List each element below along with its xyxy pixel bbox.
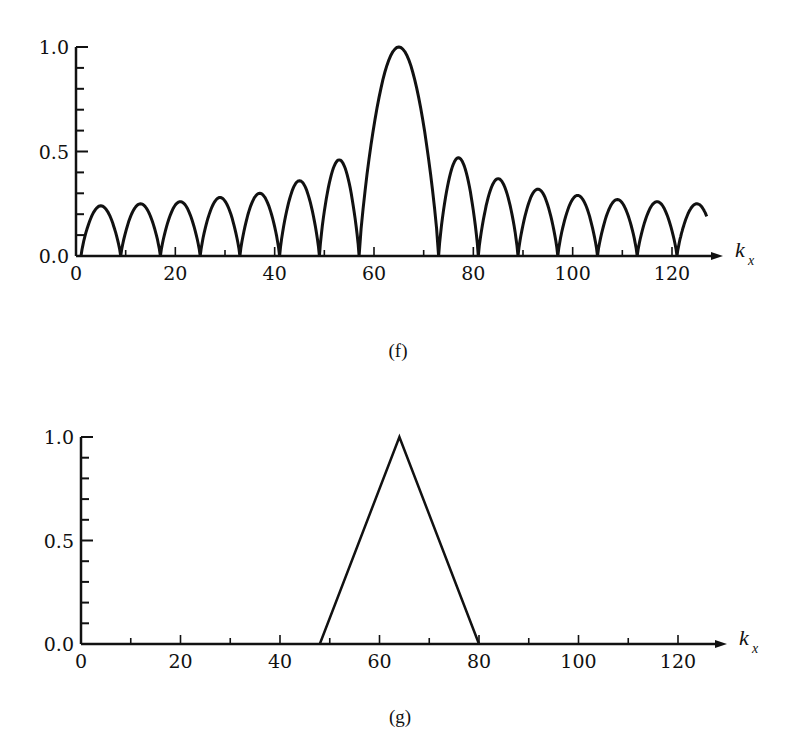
chart-f-xlabel-subscript: x [747, 253, 755, 268]
chart-f-caption: (f) [389, 340, 408, 362]
x-tick-label: 0 [70, 262, 82, 284]
chart-g-xlabel-subscript: x [751, 641, 759, 656]
x-tick-label: 40 [263, 262, 287, 284]
x-tick-label: 0 [75, 650, 87, 672]
chart-f-axes [76, 47, 723, 260]
x-tick-label: 20 [168, 650, 192, 672]
x-tick-label: 40 [268, 650, 292, 672]
chart-g-axes [81, 437, 727, 648]
x-tick-label: 60 [362, 262, 386, 284]
x-axis-arrow-icon [711, 252, 723, 260]
x-axis-arrow-icon [715, 640, 727, 648]
x-tick-label: 80 [467, 650, 491, 672]
chart-f-sinc-spectrum: 0.00.51.0020406080100120 k x (f) [39, 36, 755, 362]
y-tick-label: 0.0 [39, 245, 69, 267]
x-tick-label: 120 [654, 262, 690, 284]
chart-g-caption: (g) [389, 706, 411, 728]
x-tick-label: 100 [555, 262, 591, 284]
chart-g-xlabel: k [739, 625, 750, 650]
y-tick-label: 0.5 [44, 530, 74, 552]
chart-g-curve [320, 437, 479, 644]
chart-g-tick-labels: 0.00.51.0020406080100120 [44, 426, 696, 672]
y-tick-label: 0.0 [44, 633, 74, 655]
x-tick-label: 100 [560, 650, 596, 672]
x-tick-label: 20 [163, 262, 187, 284]
y-tick-label: 1.0 [39, 36, 69, 58]
chart-f-xlabel: k [735, 237, 746, 262]
y-tick-label: 0.5 [39, 141, 69, 163]
chart-g-triangle: 0.00.51.0020406080100120 k x (g) [44, 426, 759, 728]
x-tick-label: 120 [660, 650, 696, 672]
x-tick-label: 80 [461, 262, 485, 284]
chart-f-tick-labels: 0.00.51.0020406080100120 [39, 36, 690, 284]
x-tick-label: 60 [367, 650, 391, 672]
chart-f-curve [81, 47, 707, 256]
y-tick-label: 1.0 [44, 426, 74, 448]
figure: 0.00.51.0020406080100120 k x (f) 0.00.51… [0, 0, 787, 746]
